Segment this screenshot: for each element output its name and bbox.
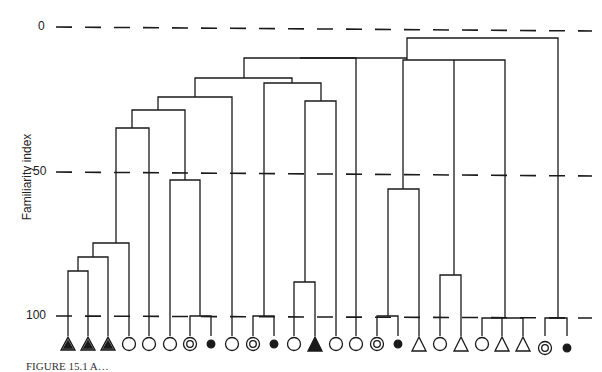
leaf-11-circle-filled-icon bbox=[270, 340, 278, 348]
leaf-17-circle-filled-icon bbox=[394, 340, 402, 348]
leaf-2-triangle-double-icon bbox=[81, 337, 95, 350]
leaf-25-circle-filled-icon bbox=[563, 344, 571, 352]
leaf-21-circle-open-icon bbox=[476, 338, 489, 351]
leaf-13-triangle-filled-icon bbox=[308, 337, 322, 351]
leaf-12-circle-open-icon bbox=[288, 338, 301, 351]
reference-line-50 bbox=[56, 172, 592, 176]
leaf-1-triangle-double-icon bbox=[61, 337, 75, 350]
leaf-9-circle-open-icon bbox=[226, 338, 239, 351]
y-tick-0: 0 bbox=[38, 19, 45, 33]
reference-lines bbox=[56, 27, 592, 318]
y-tick-50: 50 bbox=[33, 164, 46, 178]
reference-line-0 bbox=[56, 27, 592, 31]
figure-caption: FIGURE 15.1 A… bbox=[26, 360, 109, 372]
leaf-20-triangle-open-icon bbox=[454, 337, 468, 351]
leaf-4-circle-open-icon bbox=[123, 338, 136, 351]
leaf-3-triangle-double-icon bbox=[101, 337, 115, 350]
leaf-5-circle-open-icon bbox=[143, 338, 156, 351]
tree-links bbox=[68, 38, 567, 336]
leaf-15-circle-open-icon bbox=[350, 338, 363, 351]
leaf-7-circle-double-icon bbox=[184, 338, 197, 351]
leaf-22-triangle-open-icon bbox=[495, 337, 509, 351]
leaf-24-circle-double-icon bbox=[539, 342, 552, 355]
leaf-23-triangle-open-icon bbox=[516, 337, 530, 351]
leaf-symbols bbox=[61, 337, 571, 355]
y-axis-label: Familiarity index bbox=[20, 134, 34, 221]
leaf-6-circle-open-icon bbox=[164, 338, 177, 351]
leaf-10-circle-double-icon bbox=[247, 338, 260, 351]
leaf-19-circle-open-icon bbox=[434, 338, 447, 351]
leaf-18-triangle-open-icon bbox=[412, 337, 426, 351]
leaf-16-circle-double-icon bbox=[371, 338, 384, 351]
leaf-14-circle-open-icon bbox=[330, 338, 343, 351]
leaf-8-circle-filled-icon bbox=[207, 340, 215, 348]
y-tick-100: 100 bbox=[26, 308, 46, 322]
